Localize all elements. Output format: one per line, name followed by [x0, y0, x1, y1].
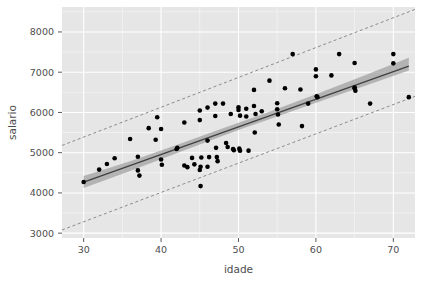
data-point — [337, 52, 342, 57]
data-point — [153, 138, 158, 143]
x-axis-title: idade — [224, 263, 253, 275]
data-point — [185, 165, 190, 170]
data-point — [300, 124, 305, 129]
data-point — [353, 88, 358, 93]
data-point — [275, 101, 280, 106]
data-point — [232, 148, 237, 153]
data-point — [213, 114, 218, 119]
data-point — [314, 74, 319, 79]
data-point — [214, 146, 219, 151]
data-point — [81, 180, 86, 185]
data-point — [197, 168, 202, 173]
data-point — [228, 112, 233, 117]
tick-label-x: 70 — [387, 244, 399, 255]
data-point — [306, 101, 311, 106]
tick-label-y: 4000 — [30, 187, 54, 198]
data-point — [215, 159, 220, 164]
data-point — [97, 167, 102, 172]
data-point — [136, 154, 141, 159]
data-point — [205, 105, 210, 110]
data-point — [259, 109, 264, 114]
data-point — [252, 130, 257, 135]
data-point — [155, 115, 160, 120]
data-point — [276, 122, 281, 127]
data-point — [213, 101, 218, 106]
data-point — [252, 104, 257, 109]
data-point — [192, 162, 197, 167]
data-point — [246, 148, 251, 153]
data-point — [105, 162, 110, 167]
data-point — [244, 107, 249, 112]
data-point — [128, 137, 133, 142]
data-point — [391, 61, 396, 66]
data-point — [315, 95, 320, 100]
data-point — [207, 155, 212, 160]
data-point — [224, 141, 229, 146]
data-point — [252, 88, 257, 93]
data-point — [407, 95, 412, 100]
data-point — [175, 146, 180, 151]
data-point — [159, 127, 164, 132]
data-point — [238, 148, 243, 153]
data-point — [290, 52, 295, 57]
tick-label-x: 60 — [310, 244, 322, 255]
data-point — [199, 155, 204, 160]
data-point — [329, 73, 334, 78]
data-point — [275, 107, 280, 112]
tick-label-x: 50 — [232, 244, 244, 255]
data-point — [267, 78, 272, 83]
data-point — [244, 114, 249, 119]
tick-label-y: 8000 — [30, 26, 54, 37]
chart-container: 3040506070300040005000600070008000idades… — [0, 0, 427, 286]
data-point — [391, 52, 396, 57]
data-point — [112, 156, 117, 161]
data-point — [314, 67, 319, 72]
data-point — [136, 168, 141, 173]
data-point — [159, 157, 164, 162]
data-point — [205, 164, 210, 169]
data-point — [198, 184, 203, 189]
tick-label-x: 30 — [78, 244, 90, 255]
data-point — [253, 112, 258, 117]
tick-label-y: 5000 — [30, 147, 54, 158]
data-point — [298, 87, 303, 92]
data-point — [197, 108, 202, 113]
data-point — [160, 162, 165, 167]
data-point — [368, 101, 373, 106]
data-point — [205, 138, 210, 143]
tick-label-x: 40 — [155, 244, 167, 255]
data-point — [283, 86, 288, 91]
data-point — [197, 118, 202, 123]
data-point — [236, 108, 241, 113]
tick-label-y: 3000 — [30, 228, 54, 239]
data-point — [215, 155, 220, 160]
data-point — [137, 173, 142, 178]
y-axis-title: salario — [6, 105, 18, 140]
data-point — [190, 156, 195, 161]
scatter-plot-svg: 3040506070300040005000600070008000idades… — [0, 0, 427, 286]
data-point — [238, 113, 243, 118]
data-point — [146, 126, 151, 131]
tick-label-y: 6000 — [30, 107, 54, 118]
data-point — [221, 101, 226, 106]
data-point — [225, 145, 230, 150]
data-point — [276, 112, 281, 117]
tick-label-y: 7000 — [30, 67, 54, 78]
data-point — [182, 120, 187, 125]
data-point — [352, 61, 357, 66]
